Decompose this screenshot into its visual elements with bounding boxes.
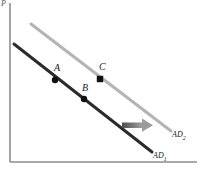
data-point-c: [97, 76, 103, 82]
data-point-b: [81, 96, 87, 102]
data-point-a-label: A: [54, 63, 60, 73]
data-point-a: [52, 77, 58, 83]
ad1-label-text: AD: [153, 151, 164, 160]
shift-arrow-icon: [122, 119, 153, 132]
data-point-c-label: C: [99, 62, 106, 72]
ad2-label-text: AD: [172, 130, 183, 139]
demand-shift-figure: P A B C AD1 AD2: [0, 0, 200, 169]
ad2-label-subscript: 2: [183, 135, 186, 141]
ad1-label-subscript: 1: [164, 156, 167, 162]
demand-curve-ad1-label: AD1: [153, 152, 167, 163]
data-point-b-label: B: [82, 83, 88, 93]
plot-canvas: [0, 0, 200, 169]
demand-curve-ad2-label: AD2: [172, 131, 186, 142]
price-axis-label: P: [1, 0, 6, 8]
